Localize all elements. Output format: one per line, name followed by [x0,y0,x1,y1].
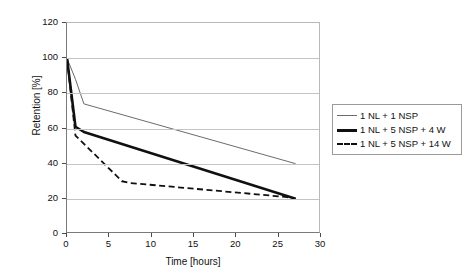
y-tick-mark [62,57,66,58]
x-axis-title: Time [hours] [66,256,320,267]
x-tick-mark [278,233,279,237]
y-tick-label: 20 [16,193,58,203]
x-tick-mark [320,233,321,237]
x-tick-label: 10 [136,239,166,249]
y-axis-title: Retention [%] [31,46,42,166]
y-tick-label: 0 [16,228,58,238]
y-tick-mark [62,163,66,164]
x-tick-mark [66,233,67,237]
legend-label: 1 NL + 5 NSP + 14 W [360,138,451,149]
y-tick-label: 120 [16,17,58,27]
x-tick-label: 30 [305,239,335,249]
legend-swatch-dashed-icon [336,137,358,149]
legend-label: 1 NL + 5 NSP + 4 W [360,124,446,135]
chart-figure: 020406080100120 051015202530 Retention [… [0,0,469,280]
legend-label: 1 NL + 1 NSP [360,110,418,121]
y-tick-mark [62,198,66,199]
legend-swatch-thin-solid-icon [336,109,358,121]
x-tick-label: 5 [93,239,123,249]
x-tick-label: 25 [263,239,293,249]
x-tick-label: 20 [220,239,250,249]
y-tick-mark [62,22,66,23]
y-tick-mark [62,128,66,129]
legend-swatch-bold-solid-icon [336,123,358,135]
x-tick-mark [235,233,236,237]
legend-item-1-nl-5-nsp-14-w: 1 NL + 5 NSP + 14 W [336,136,459,150]
x-tick-mark [108,233,109,237]
y-tick-mark [62,92,66,93]
legend-item-1-nl-5-nsp-4-w: 1 NL + 5 NSP + 4 W [336,122,459,136]
legend-item-1-nl-1-nsp: 1 NL + 1 NSP [336,108,459,122]
x-tick-mark [151,233,152,237]
x-tick-label: 0 [51,239,81,249]
chart-legend: 1 NL + 1 NSP 1 NL + 5 NSP + 4 W 1 NL + 5… [332,104,462,155]
x-tick-mark [193,233,194,237]
x-tick-label: 15 [178,239,208,249]
